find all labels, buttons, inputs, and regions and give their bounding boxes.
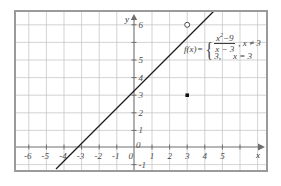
x-tick-label--2: -2 <box>94 152 102 161</box>
x-tick-label--6: -6 <box>24 152 32 161</box>
y-tick-label-5: 5 <box>139 56 144 65</box>
y-tick-label-6: 6 <box>139 21 144 30</box>
piecewise-formula-annotation: f(x) = { x2−9 x − 3 , x ≠ 3 3, x = 3 <box>184 36 261 61</box>
formula-cases: x2−9 x − 3 , x ≠ 3 3, x = 3 <box>214 36 261 61</box>
y-tick-label--1: -1 <box>139 161 147 170</box>
formula-case-1-condition: , x ≠ 3 <box>238 38 260 48</box>
y-tick-label-1: 1 <box>139 126 144 135</box>
fraction-numerator: x2−9 <box>215 34 235 42</box>
y-tick-label-0: 0 <box>136 141 141 150</box>
open-point-hole <box>185 22 190 27</box>
x-tick-label-5: 5 <box>220 152 225 161</box>
formula-case-2-value: 3, <box>214 51 221 61</box>
formula-equals: = <box>198 44 203 54</box>
x-tick-label-3: 3 <box>185 152 190 161</box>
y-axis-label: y <box>125 15 129 24</box>
x-tick-label--5: -5 <box>42 152 50 161</box>
formula-case-2-condition: x = 3 <box>233 51 252 61</box>
x-tick-label--3: -3 <box>77 152 85 161</box>
y-tick-label-3: 3 <box>139 91 144 100</box>
x-tick-label-0: 0 <box>129 152 134 161</box>
x-tick-label-2: 2 <box>167 152 172 161</box>
y-tick-label-4: 4 <box>139 74 144 83</box>
x-tick-label--1: -1 <box>112 152 120 161</box>
function-graph-figure: -6 -5 -4 -3 -2 -1 0 1 2 3 4 5 -1 0 1 2 3… <box>0 0 281 186</box>
formula-fraction: x2−9 x − 3 <box>214 34 235 53</box>
x-axis-label: x <box>256 151 260 160</box>
formula-lhs: f(x) <box>184 44 197 54</box>
x-tick-label--4: -4 <box>59 152 67 161</box>
filled-point <box>185 93 189 97</box>
x-tick-label-4: 4 <box>203 152 208 161</box>
y-tick-label-2: 2 <box>139 109 144 118</box>
formula-brace: { <box>205 44 212 53</box>
formula-case-1: x2−9 x − 3 , x ≠ 3 <box>214 36 261 50</box>
x-tick-label-1: 1 <box>150 152 155 161</box>
